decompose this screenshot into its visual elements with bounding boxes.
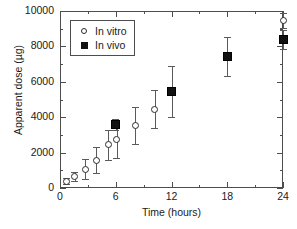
error-bar-cap: [280, 30, 287, 31]
error-bar-cap: [105, 160, 112, 161]
x-tick-mark-top: [172, 11, 173, 17]
error-bar-cap: [280, 28, 287, 29]
y-minor-tick-right: [280, 170, 283, 171]
data-point-in-vitro: [63, 178, 70, 185]
error-bar-cap: [151, 128, 158, 129]
legend-label: In vivo: [95, 39, 125, 51]
error-bar-cap: [93, 147, 100, 148]
y-tick-mark: [60, 188, 66, 189]
open-circle-icon: [76, 28, 92, 34]
filled-square-icon: [76, 42, 92, 49]
y-tick-mark: [60, 82, 66, 83]
chart-figure: Apparent dose (µg) Time (hours) 02000400…: [0, 0, 297, 229]
data-point-in-vitro: [280, 17, 287, 24]
data-point-in-vitro: [82, 166, 89, 173]
x-minor-tick: [144, 185, 145, 188]
error-bar-cap: [280, 49, 287, 50]
x-tick-mark-top: [227, 11, 228, 17]
x-minor-tick-top: [255, 11, 256, 14]
y-minor-tick: [60, 135, 63, 136]
x-minor-tick: [88, 185, 89, 188]
y-minor-tick-right: [280, 135, 283, 136]
error-bar-cap: [132, 144, 139, 145]
x-tick-mark: [60, 182, 61, 188]
data-point-in-vitro: [113, 136, 120, 143]
data-point-in-vivo: [167, 87, 176, 96]
legend-item-in-vitro: In vitro: [76, 24, 127, 38]
data-point-in-vivo: [223, 52, 232, 61]
error-bar-cap: [151, 90, 158, 91]
legend: In vitro In vivo: [70, 20, 135, 56]
y-minor-tick-right: [280, 100, 283, 101]
y-tick-mark-right: [277, 82, 283, 83]
y-minor-tick: [60, 29, 63, 30]
y-tick-mark-right: [277, 153, 283, 154]
x-minor-tick-top: [88, 11, 89, 14]
x-tick-mark-top: [60, 11, 61, 17]
x-tick-mark: [172, 182, 173, 188]
y-minor-tick: [60, 100, 63, 101]
x-tick-mark: [227, 182, 228, 188]
y-tick-mark-right: [277, 188, 283, 189]
y-tick-mark: [60, 117, 66, 118]
x-minor-tick-top: [199, 11, 200, 14]
error-bar-cap: [82, 159, 89, 160]
error-bar-cap: [112, 130, 119, 131]
error-bar-cap: [93, 173, 100, 174]
x-minor-tick-top: [144, 11, 145, 14]
y-tick-mark: [60, 153, 66, 154]
legend-item-in-vivo: In vivo: [76, 38, 127, 52]
error-bar-cap: [224, 76, 231, 77]
data-point-in-vitro: [132, 122, 139, 129]
x-tick-label: 18: [207, 190, 247, 202]
y-minor-tick: [60, 170, 63, 171]
y-tick-label: 2000: [4, 146, 54, 158]
data-point-in-vivo: [279, 35, 288, 44]
error-bar-cap: [168, 117, 175, 118]
error-bar-cap: [105, 130, 112, 131]
x-tick-mark: [283, 182, 284, 188]
x-axis-title: Time (hours): [60, 206, 283, 218]
error-bar-cap: [168, 66, 175, 67]
x-tick-label: 0: [40, 190, 80, 202]
x-tick-label: 24: [263, 190, 297, 202]
x-tick-label: 6: [96, 190, 136, 202]
data-point-in-vitro: [93, 157, 100, 164]
x-tick-mark: [116, 182, 117, 188]
y-tick-label: 6000: [4, 75, 54, 87]
data-point-in-vitro: [151, 106, 158, 113]
data-point-in-vivo: [111, 120, 120, 129]
y-tick-label: 8000: [4, 39, 54, 51]
y-tick-mark: [60, 46, 66, 47]
error-bar-cap: [132, 107, 139, 108]
error-bar-cap: [224, 37, 231, 38]
error-bar-cap: [280, 13, 287, 14]
x-tick-mark-top: [116, 11, 117, 17]
error-bar-cap: [82, 179, 89, 180]
x-tick-label: 12: [152, 190, 192, 202]
legend-label: In vitro: [95, 25, 127, 37]
y-tick-label: 10000: [4, 4, 54, 16]
y-tick-label: 4000: [4, 110, 54, 122]
x-minor-tick: [199, 185, 200, 188]
y-minor-tick: [60, 64, 63, 65]
y-minor-tick-right: [280, 64, 283, 65]
x-minor-tick: [255, 185, 256, 188]
error-bar-cap: [71, 181, 78, 182]
error-bar-cap: [113, 158, 120, 159]
y-tick-mark-right: [277, 117, 283, 118]
